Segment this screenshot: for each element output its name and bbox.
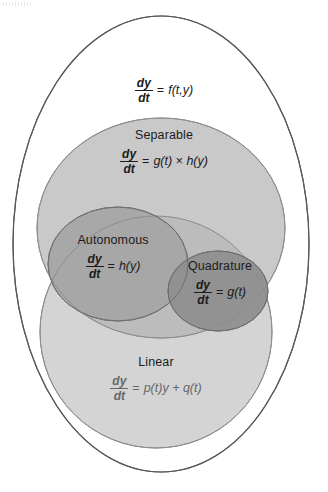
venn-diagram: dy dt = f(t,y) Separable dy dt = g(t) × … — [0, 0, 328, 492]
region-autonomous-shape — [48, 207, 188, 321]
venn-shapes — [0, 0, 328, 492]
